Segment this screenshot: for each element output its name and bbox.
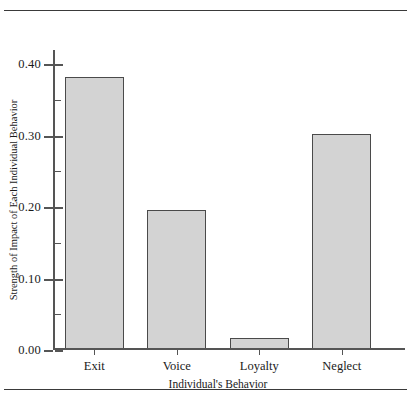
plot-area: 0.000.100.200.300.40 ExitVoiceLoyaltyNeg… — [53, 50, 383, 350]
x-tick — [177, 350, 178, 355]
y-tick-major — [44, 279, 53, 281]
bar-series — [53, 50, 383, 348]
page-rule-top — [4, 10, 407, 11]
x-tick-label-neglect: Neglect — [322, 359, 361, 374]
y-axis-title: Strength of Impact of Each Individual Be… — [8, 100, 19, 301]
bar-exit — [65, 77, 124, 348]
y-tick-major — [44, 64, 53, 66]
bar-voice — [147, 210, 206, 348]
x-axis-title: Individual's Behavior — [53, 378, 383, 390]
x-axis-line — [53, 348, 405, 350]
y-tick-major — [44, 350, 53, 352]
y-tick-major-inner — [55, 350, 63, 352]
x-tick — [342, 350, 343, 355]
x-tick-label-exit: Exit — [84, 359, 105, 374]
x-tick — [259, 350, 260, 355]
y-tick-major — [44, 207, 53, 209]
x-tick-label-loyalty: Loyalty — [240, 359, 279, 374]
bar-neglect — [312, 134, 371, 348]
bar-loyalty — [230, 338, 289, 348]
y-tick-label: 0.20 — [18, 200, 41, 215]
figure-bar-chart: 0.000.100.200.300.40 ExitVoiceLoyaltyNeg… — [0, 0, 411, 399]
page-caption-sliver — [18, 0, 401, 8]
x-tick-label-voice: Voice — [163, 359, 191, 374]
y-tick-label: 0.40 — [18, 57, 41, 72]
x-tick — [94, 350, 95, 355]
y-tick-label: 0.30 — [18, 128, 41, 143]
y-tick-major — [44, 136, 53, 138]
y-tick-label: 0.10 — [18, 271, 41, 286]
y-tick-label: 0.00 — [18, 343, 41, 358]
